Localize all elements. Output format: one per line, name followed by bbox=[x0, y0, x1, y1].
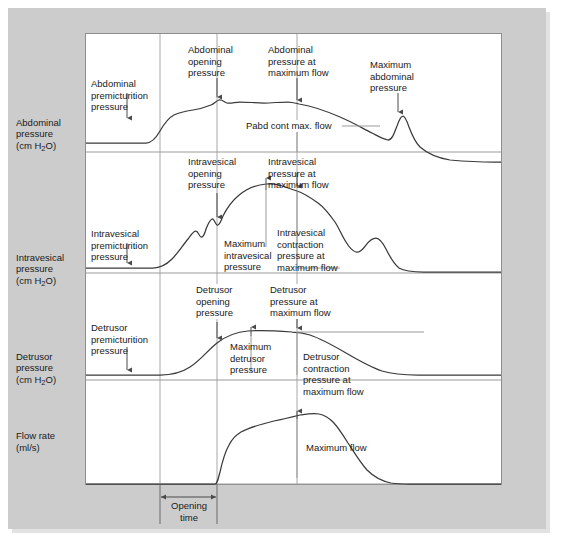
annotation-intravesical-pressure-at-maximum-flow: Intravesical pressure at maximum flow bbox=[268, 156, 346, 191]
axis-label-intravesical-sub: 2 bbox=[41, 279, 45, 288]
annotation-pabd-cont-max-flow: Pabd cont max. flow bbox=[246, 120, 342, 132]
annotation-abdominal-pressure-at-maximum-flow: Abdominal pressure at maximum flow bbox=[268, 44, 344, 79]
axis-label-intravesical-tail: O) bbox=[46, 275, 57, 286]
annotation-maximum-intravesical-pressure: Maximum intravesical pressure bbox=[224, 238, 284, 273]
annotation-detrusor-contraction-pressure-at-maximum-flow: Detrusor contraction pressure at maximum… bbox=[303, 351, 375, 397]
annotation-maximum-abdominal-pressure: Maximum abdominal pressure bbox=[370, 59, 436, 94]
annotation-abdominal-premicturition-pressure: Abdominal premicturition pressure bbox=[91, 78, 163, 113]
annotation-intravesical-opening-pressure: Intravesical opening pressure bbox=[188, 156, 254, 191]
annotation-detrusor-pressure-at-maximum-flow: Detrusor pressure at maximum flow bbox=[270, 284, 344, 319]
annotation-opening-time: Opening time bbox=[161, 500, 217, 523]
annotation-intravesical-premicturition-pressure: Intravesical premicturition pressure bbox=[91, 228, 167, 263]
annotation-abdominal-opening-pressure: Abdominal opening pressure bbox=[188, 44, 252, 79]
axis-label-abdominal-sub: 2 bbox=[41, 144, 45, 153]
annotation-detrusor-opening-pressure: Detrusor opening pressure bbox=[196, 284, 246, 319]
axis-label-abdominal-pressure: Abdominal pressure (cm H2O) bbox=[16, 105, 82, 152]
annotation-detrusor-premicturition-pressure: Detrusor premicturition pressure bbox=[91, 322, 163, 357]
axis-label-detrusor-tail: O) bbox=[46, 374, 57, 385]
annotation-intravesical-contraction-pressure-at-maximum-flow: Intravesical contraction pressure at max… bbox=[277, 227, 345, 273]
axis-label-abdominal-tail: O) bbox=[46, 140, 57, 151]
annotation-maximum-flow: Maximum flow bbox=[306, 442, 392, 454]
flow-rate-curve bbox=[86, 414, 501, 484]
abdominal-annotation-arrows bbox=[127, 78, 398, 118]
axis-label-flow-rate: Flow rate (ml/s) bbox=[16, 430, 82, 453]
axis-label-detrusor-sub: 2 bbox=[41, 378, 45, 387]
annotation-maximum-detrusor-pressure: Maximum detrusor pressure bbox=[230, 341, 288, 376]
axis-label-intravesical-pressure: Intravesical pressure (cm H2O) bbox=[16, 240, 84, 287]
urodynamics-figure: Abdominal pressure (cm H2O) Intravesical… bbox=[0, 0, 566, 544]
flow-curve-group bbox=[86, 411, 501, 484]
axis-label-detrusor-pressure: Detrusor pressure (cm H2O) bbox=[16, 339, 82, 386]
